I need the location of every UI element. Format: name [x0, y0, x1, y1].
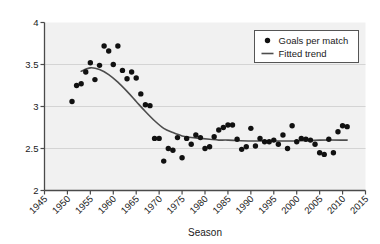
data-point — [115, 43, 120, 48]
x-tick-label: 1990 — [233, 193, 256, 216]
data-point — [294, 139, 299, 144]
data-point — [83, 69, 88, 74]
data-point — [198, 135, 203, 140]
data-point — [179, 155, 184, 160]
data-point — [184, 136, 189, 141]
x-tick-label: 1970 — [141, 193, 164, 216]
data-point — [326, 137, 331, 142]
legend-label: Fitted trend — [279, 48, 327, 59]
x-axis-title: Season — [188, 227, 222, 238]
data-point — [161, 158, 166, 163]
legend-marker-icon — [265, 38, 270, 43]
data-point — [147, 103, 152, 108]
data-point — [267, 139, 272, 144]
data-point — [289, 123, 294, 128]
x-tick-label: 2015 — [348, 193, 371, 216]
data-point — [92, 77, 97, 82]
data-point — [129, 69, 134, 74]
data-point — [134, 75, 139, 80]
data-point — [285, 146, 290, 151]
scatter-chart: 22.533.54 194519501955196019651970197519… — [0, 0, 380, 244]
data-point — [303, 137, 308, 142]
data-point — [280, 132, 285, 137]
x-tick-label: 1980 — [187, 193, 210, 216]
x-tick-label: 1965 — [118, 193, 141, 216]
data-point — [253, 143, 258, 148]
data-point — [312, 142, 317, 147]
data-point — [78, 81, 83, 86]
data-point — [211, 134, 216, 139]
legend-label: Goals per match — [279, 35, 349, 46]
y-axis-ticks: 22.533.54 — [25, 17, 44, 196]
x-tick-label: 1975 — [164, 193, 187, 216]
chart-figure: 22.533.54 194519501955196019651970197519… — [0, 0, 380, 244]
data-point — [299, 136, 304, 141]
y-tick-label: 4 — [33, 17, 38, 28]
data-point — [101, 43, 106, 48]
data-point — [335, 129, 340, 134]
data-point — [234, 137, 239, 142]
chart-legend[interactable]: Goals per matchFitted trend — [255, 31, 359, 63]
data-point — [340, 123, 345, 128]
x-axis-ticks: 1945195019551960196519701975198019851990… — [27, 191, 371, 216]
y-tick-label: 3.5 — [25, 59, 38, 70]
data-point — [257, 136, 262, 141]
data-point — [221, 125, 226, 130]
data-point — [120, 68, 125, 73]
data-point — [156, 136, 161, 141]
data-point — [74, 83, 79, 88]
x-tick-label: 2010 — [325, 193, 348, 216]
data-point — [344, 124, 349, 129]
data-point — [143, 102, 148, 107]
data-point — [189, 142, 194, 147]
data-point — [138, 91, 143, 96]
data-point — [69, 99, 74, 104]
data-point — [216, 127, 221, 132]
data-point — [308, 137, 313, 142]
data-point — [124, 76, 129, 81]
data-point — [207, 144, 212, 149]
y-tick-label: 2.5 — [25, 143, 38, 154]
data-point — [106, 48, 111, 53]
x-tick-label: 1950 — [50, 193, 73, 216]
x-tick-label: 1960 — [95, 193, 118, 216]
y-tick-label: 3 — [33, 101, 38, 112]
data-point — [331, 150, 336, 155]
x-tick-label: 1995 — [256, 193, 279, 216]
data-point — [88, 60, 93, 65]
data-point — [170, 147, 175, 152]
data-point — [276, 142, 281, 147]
x-tick-label: 1985 — [210, 193, 233, 216]
data-point — [239, 147, 244, 152]
data-point — [262, 139, 267, 144]
data-point — [244, 144, 249, 149]
data-point — [202, 146, 207, 151]
y-tick-label: 2 — [33, 185, 38, 196]
data-point — [271, 137, 276, 142]
data-point — [193, 132, 198, 137]
data-point — [322, 152, 327, 157]
x-axis-label: Season — [188, 227, 222, 238]
x-tick-label: 2005 — [302, 193, 325, 216]
data-point — [175, 135, 180, 140]
x-tick-label: 2000 — [279, 193, 302, 216]
data-point — [97, 63, 102, 68]
data-point — [111, 62, 116, 67]
data-point — [317, 150, 322, 155]
x-tick-label: 1955 — [73, 193, 96, 216]
data-point — [166, 146, 171, 151]
x-tick-label: 1945 — [27, 193, 50, 216]
data-point — [230, 122, 235, 127]
data-point — [248, 126, 253, 131]
